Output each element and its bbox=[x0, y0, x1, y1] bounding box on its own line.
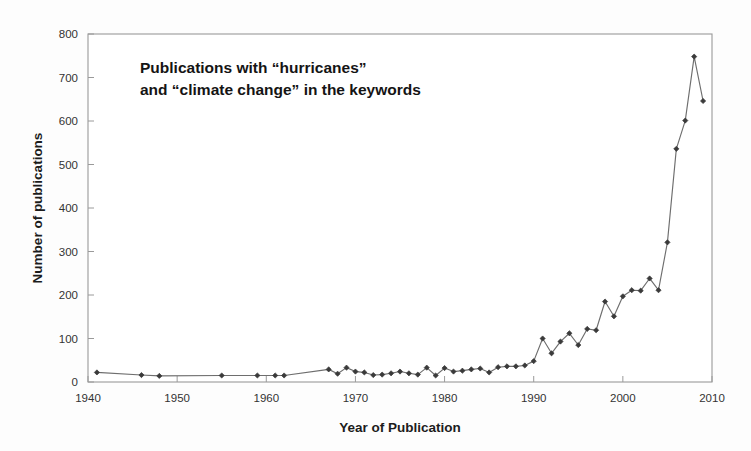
x-tick-label: 1950 bbox=[164, 392, 190, 404]
annotation-line-2: and “climate change” in the keywords bbox=[140, 81, 421, 98]
y-tick-label: 600 bbox=[59, 115, 78, 127]
x-tick-label: 2010 bbox=[699, 392, 725, 404]
y-axis-title: Number of publications bbox=[30, 133, 45, 284]
y-tick-label: 0 bbox=[72, 376, 78, 388]
x-tick-label: 1940 bbox=[75, 392, 101, 404]
y-tick-label: 800 bbox=[59, 28, 78, 40]
y-tick-label: 300 bbox=[59, 246, 78, 258]
y-tick-label: 400 bbox=[59, 202, 78, 214]
y-tick-label: 500 bbox=[59, 159, 78, 171]
y-tick-label: 200 bbox=[59, 289, 78, 301]
x-tick-label: 2000 bbox=[610, 392, 636, 404]
chart-figure: 0100200300400500600700800 19401950196019… bbox=[0, 0, 751, 451]
x-tick-label: 1960 bbox=[253, 392, 279, 404]
y-tick-label: 100 bbox=[59, 333, 78, 345]
x-axis-title: Year of Publication bbox=[339, 420, 461, 435]
y-tick-label: 700 bbox=[59, 72, 78, 84]
line-chart: 0100200300400500600700800 19401950196019… bbox=[0, 0, 751, 451]
x-tick-label: 1990 bbox=[521, 392, 547, 404]
x-tick-label: 1980 bbox=[432, 392, 458, 404]
annotation-line-1: Publications with “hurricanes” bbox=[140, 59, 367, 76]
x-tick-label: 1970 bbox=[343, 392, 369, 404]
